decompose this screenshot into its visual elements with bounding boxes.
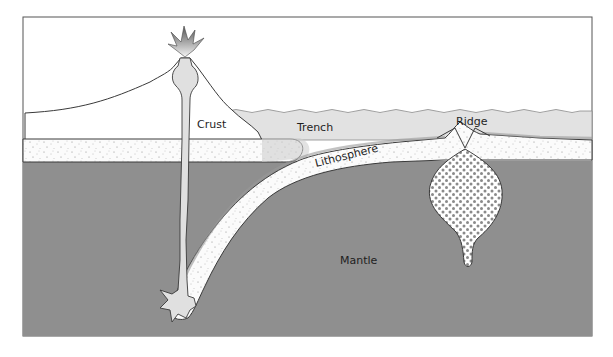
label-trench: Trench — [296, 121, 333, 134]
ocean-water — [228, 110, 592, 141]
label-mantle: Mantle — [340, 254, 378, 267]
subduction-diagram: Crust Trench Ridge Lithosphere Mantle — [0, 0, 613, 357]
label-crust: Crust — [197, 118, 227, 131]
label-ridge: Ridge — [456, 115, 488, 128]
overriding-lithosphere — [23, 139, 303, 162]
mantle-region — [23, 161, 592, 336]
